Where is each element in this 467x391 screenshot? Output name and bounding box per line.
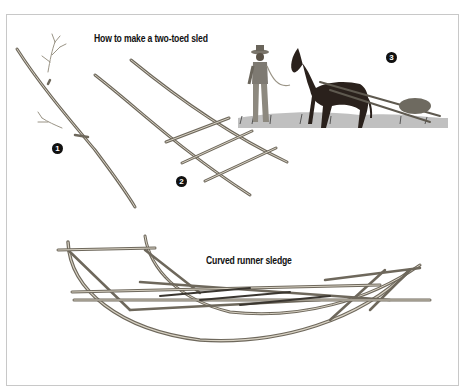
forked-branch-icon <box>17 34 135 207</box>
title-curved-runner-sledge: Curved runner sledge <box>206 254 292 266</box>
step-badge-3: 3 <box>386 52 397 63</box>
horse-scene-icon <box>238 45 448 128</box>
title-two-toed-sled: How to make a two-toed sled <box>94 32 208 44</box>
step-badge-2: 2 <box>176 176 187 187</box>
step-badge-1: 1 <box>52 143 63 154</box>
curved-runner-sledge-icon <box>58 236 430 341</box>
illustration-canvas <box>0 0 467 391</box>
man-icon <box>249 45 290 122</box>
